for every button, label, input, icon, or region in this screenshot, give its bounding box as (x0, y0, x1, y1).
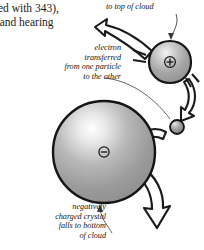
callout-electron-transfer-line-3: from one particle (14, 62, 121, 72)
callout-negative-crystal-line-2: charged crystal (6, 212, 106, 222)
callout-electron-transfer: electron transferred from one particle t… (14, 43, 121, 81)
electron-transfer-figure: ared with 343), n and hearing (0, 0, 204, 250)
callout-negative-crystal-line-4: of cloud (6, 231, 106, 241)
leader-line-top-of-cloud (168, 14, 177, 40)
transferred-electron-particle (170, 120, 184, 134)
callout-negative-crystal-line-3: falls to bottom (6, 221, 106, 231)
arrow-down-right-small-icon (181, 79, 195, 121)
negative-crystal-particle (53, 101, 155, 203)
callout-negative-crystal: negatively charged crystal falls to bott… (6, 202, 106, 240)
callout-electron-transfer-line-2: transferred (14, 53, 121, 63)
callout-electron-transfer-line-1: electron (14, 43, 121, 53)
callout-electron-transfer-line-4: to the other (14, 72, 121, 82)
callout-top-of-cloud: to top of cloud (106, 2, 154, 12)
callout-negative-crystal-line-1: negatively (6, 202, 106, 212)
